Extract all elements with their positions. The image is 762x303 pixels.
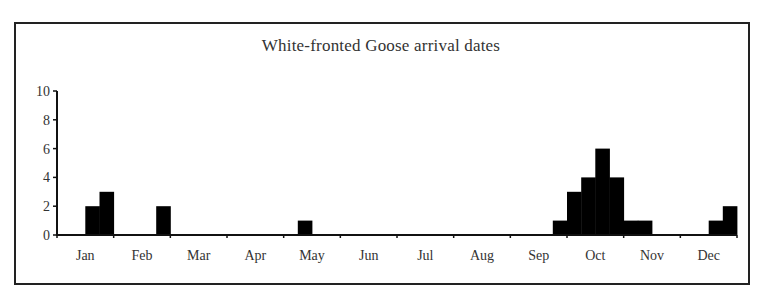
x-tick-label-nov: Nov [640, 248, 664, 263]
bar [595, 149, 610, 235]
bar [567, 192, 582, 235]
bar [638, 221, 653, 235]
plot-area: 0246810 JanFebMarAprMayJunJulAugSepOctNo… [0, 0, 762, 303]
x-tick-label-jul: Jul [417, 248, 433, 263]
y-tick-label: 8 [43, 113, 50, 128]
bar [298, 221, 313, 235]
bar [610, 177, 625, 235]
bar [85, 206, 100, 235]
x-tick-label-mar: Mar [187, 248, 211, 263]
bar [581, 177, 596, 235]
bar [723, 206, 738, 235]
bars [85, 149, 737, 235]
y-tick-label: 0 [43, 228, 50, 243]
y-tick-label: 6 [43, 142, 50, 157]
bar [156, 206, 171, 235]
x-tick-label-aug: Aug [470, 248, 494, 263]
bar [553, 221, 568, 235]
x-tick-label-jan: Jan [76, 248, 95, 263]
y-tick-label: 4 [43, 170, 50, 185]
bar [100, 192, 115, 235]
bar [709, 221, 724, 235]
bar [624, 221, 639, 235]
y-axis-ticks: 0246810 [36, 84, 57, 243]
x-axis-ticks: JanFebMarAprMayJunJulAugSepOctNovDec [57, 235, 737, 263]
x-tick-label-oct: Oct [585, 248, 605, 263]
y-tick-label: 10 [36, 84, 50, 99]
x-tick-label-dec: Dec [697, 248, 720, 263]
x-tick-label-jun: Jun [359, 248, 378, 263]
x-tick-label-may: May [299, 248, 325, 263]
x-tick-label-apr: Apr [244, 248, 266, 263]
y-tick-label: 2 [43, 199, 50, 214]
x-tick-label-sep: Sep [528, 248, 549, 263]
x-tick-label-feb: Feb [132, 248, 153, 263]
